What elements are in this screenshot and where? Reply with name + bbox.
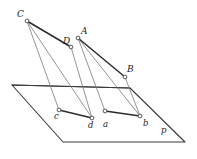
segment-a-b: [105, 111, 140, 116]
label-a: a: [103, 120, 108, 129]
ray-A-b: [78, 38, 140, 116]
label-B: B: [127, 65, 134, 74]
label-D: D: [63, 37, 70, 46]
label-C: C: [17, 10, 24, 19]
figure-canvas: [0, 0, 197, 159]
label-A: A: [81, 27, 88, 36]
vertex-A: [76, 36, 80, 40]
ray-C-c: [27, 21, 59, 110]
ray-B-b: [125, 77, 140, 116]
label-d: d: [88, 121, 93, 130]
label-b: b: [143, 119, 148, 128]
ray-D-d: [71, 47, 92, 118]
label-c: c: [54, 112, 59, 121]
vertex-B: [123, 75, 127, 79]
label-plane-p: p: [161, 126, 166, 135]
vertex-C: [25, 19, 29, 23]
vertex-a: [103, 109, 107, 113]
geometry-figure: C A D B c d a b p: [0, 0, 197, 159]
vertex-b: [138, 114, 142, 118]
